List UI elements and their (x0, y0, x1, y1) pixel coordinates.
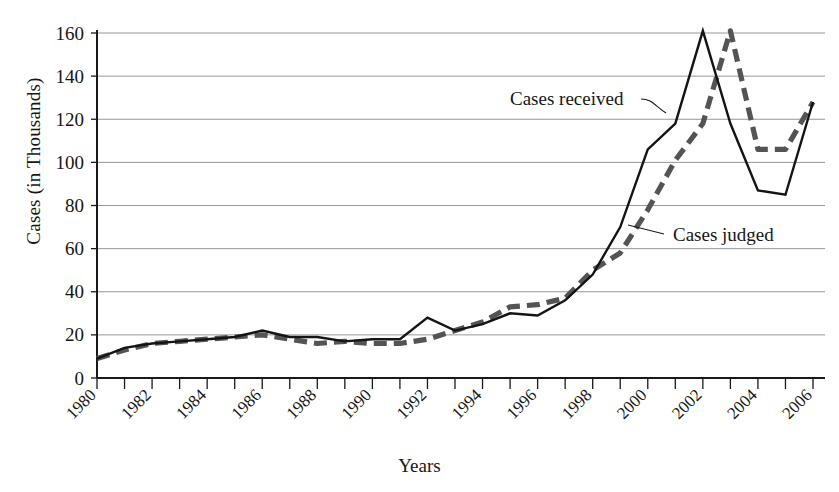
chart-canvas: 020406080100120140160 198019821984198619… (0, 0, 839, 492)
x-tick-label: 2000 (613, 385, 650, 422)
x-tick-label: 1998 (558, 385, 595, 422)
series-line-cases-received (97, 31, 813, 359)
series-line-cases-judged (97, 31, 813, 359)
x-axis-label: Years (0, 455, 839, 477)
x-tick-label: 1980 (62, 385, 99, 422)
y-axis-label: Cases (in Thousands) (23, 31, 45, 291)
x-tick-label: 1990 (338, 385, 375, 422)
x-tick-label: 1988 (283, 385, 320, 422)
x-tick-label: 1996 (503, 385, 540, 422)
x-tick-label: 1986 (228, 385, 265, 422)
annotation-leader-line-received (641, 99, 666, 113)
annotation-cases-received: Cases received (510, 88, 666, 113)
x-tick-label: 1994 (448, 385, 486, 423)
x-tick-label: 1982 (117, 385, 154, 422)
y-tick-label: 60 (65, 238, 84, 259)
x-tick-label: 2004 (723, 385, 761, 423)
x-tick-label: 2002 (668, 385, 705, 422)
x-tick-labels: 1980198219841986198819901992199419961998… (62, 385, 815, 423)
x-tick-label: 2006 (778, 385, 815, 422)
y-tick-label: 120 (56, 109, 85, 130)
y-tick-label: 140 (56, 66, 85, 87)
x-tick-marks (97, 378, 813, 389)
annotation-label-cases-received: Cases received (510, 88, 624, 109)
y-tick-label: 100 (56, 152, 85, 173)
line-chart: 020406080100120140160 198019821984198619… (0, 0, 839, 492)
x-tick-label: 1992 (393, 385, 430, 422)
y-tick-labels: 020406080100120140160 (56, 23, 85, 389)
y-tick-label: 160 (56, 23, 85, 44)
annotation-label-cases-judged: Cases judged (673, 224, 774, 245)
annotation-leader-line-judged (628, 225, 664, 234)
x-tick-label: 1984 (173, 385, 211, 423)
annotation-cases-judged: Cases judged (628, 224, 774, 245)
y-tick-label: 20 (65, 324, 84, 345)
y-tick-label: 0 (75, 368, 85, 389)
y-tick-label: 40 (65, 281, 84, 302)
y-tick-label: 80 (65, 195, 84, 216)
